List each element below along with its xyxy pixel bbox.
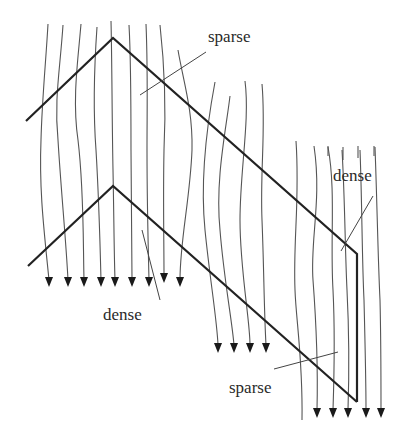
label-leaders [140,52,373,369]
arrow-down-icon [111,277,119,287]
arrow-down-icon [160,273,168,283]
flow-line [129,25,132,280]
arrow-down-icon [80,277,88,287]
arrow-down-icon [377,408,385,418]
arrow-down-icon [64,277,72,287]
label-sparse-top: sparse [208,27,250,46]
flow-lines [41,21,385,420]
arrow-down-icon [97,277,105,287]
flow-diagram: sparse dense dense sparse [0,0,399,445]
flow-line [328,147,334,410]
leader-line [142,230,160,300]
arrow-down-icon [128,277,136,287]
flow-line [160,25,165,276]
flow-line [342,150,349,410]
label-sparse-bottom: sparse [229,378,271,397]
flow-line [41,24,49,280]
flow-line [360,150,366,410]
leader-line [274,352,338,369]
flow-line [94,27,101,280]
flow-line [203,82,218,345]
flow-line [313,146,318,410]
flow-line [111,21,115,280]
arrow-down-icon [214,343,222,353]
flow-line [57,25,68,280]
flow-line [75,24,84,280]
shape-lower-edge [28,186,357,402]
arrow-down-icon [230,343,238,353]
arrow-down-icon [145,277,153,287]
arrow-down-icon [329,408,337,418]
arrow-down-icon [246,343,254,353]
arrow-down-icon [344,408,352,418]
flow-line [146,24,149,280]
leader-line [140,52,206,95]
flow-line [262,84,266,345]
arrow-down-icon [176,277,184,287]
leader-line [341,196,373,251]
label-dense-right: dense [333,166,372,185]
flow-line [295,141,302,420]
arrow-down-icon [262,343,270,353]
arrow-down-icon [362,408,370,418]
arrow-down-icon [313,408,321,418]
flow-line [375,147,381,410]
label-dense-bottom: dense [103,305,142,324]
arrow-down-icon [45,277,53,287]
